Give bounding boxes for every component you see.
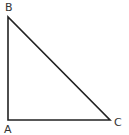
- vertex-label-b: B: [5, 1, 13, 14]
- triangle-diagram: B A C: [0, 0, 129, 135]
- triangle-abc: [8, 17, 110, 120]
- vertex-label-c: C: [114, 116, 122, 129]
- vertex-label-a: A: [4, 123, 12, 135]
